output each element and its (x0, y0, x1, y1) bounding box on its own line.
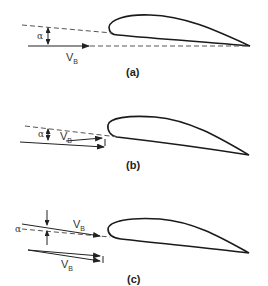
airfoil-c (108, 218, 249, 253)
caption-a: (a) (126, 66, 140, 78)
caption-b: (b) (126, 159, 140, 171)
panel-c: α VB VB (c) (15, 210, 249, 285)
alpha-label-b: α (38, 129, 44, 139)
freestream-line-b (20, 142, 104, 147)
airfoil-angle-of-attack-diagram: α VB (a) α VB (b) α VB VB (0, 0, 268, 286)
second-velocity-label-c: VB (61, 258, 73, 272)
velocity-label-a: VB (66, 51, 78, 65)
velocity-label-c: VB (73, 218, 85, 232)
alpha-label-a: α (37, 31, 43, 41)
airfoil-a (109, 15, 250, 46)
panel-a: α VB (a) (22, 15, 250, 78)
alpha-label-c: α (15, 224, 21, 234)
chord-extension-line-a (22, 25, 112, 33)
velocity-label-b: VB (60, 130, 72, 144)
caption-c: (c) (127, 273, 141, 285)
airfoil-b (108, 116, 249, 155)
panel-b: α VB (b) (20, 116, 249, 171)
